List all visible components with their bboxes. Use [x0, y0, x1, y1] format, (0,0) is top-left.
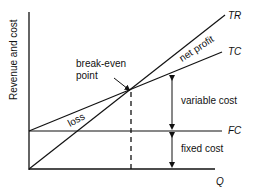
break-even-pointer: [114, 78, 128, 89]
x-axis-label: Q: [216, 176, 224, 187]
break-even-label-line2: point: [76, 70, 98, 81]
break-even-label-line1: break-even: [76, 58, 126, 69]
variable-cost-label: variable cost: [181, 95, 237, 106]
tr-label: TR: [228, 10, 241, 21]
break-even-chart: Revenue and cost Q TR TC FC break-even p…: [0, 0, 253, 193]
tc-label: TC: [228, 46, 242, 57]
y-axis-label: Revenue and cost: [8, 19, 19, 100]
fixed-cost-label: fixed cost: [181, 143, 223, 154]
fc-label: FC: [228, 125, 242, 136]
